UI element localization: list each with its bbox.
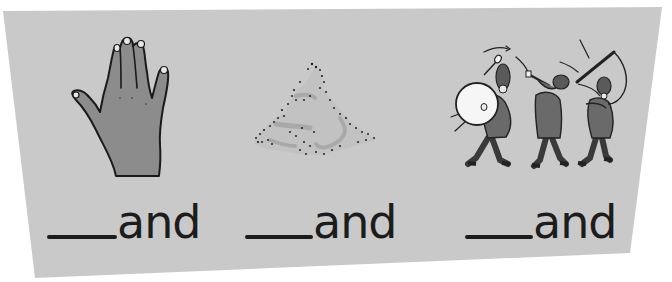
answer-blank-1[interactable] (47, 235, 117, 239)
worksheet-card-stage: and and and (0, 0, 672, 282)
answer-blank-3[interactable] (465, 235, 533, 239)
answer-blank-2[interactable] (245, 235, 313, 239)
word-ending-2: and (313, 199, 397, 245)
word-ending-3: and (533, 199, 617, 245)
word-ending-1: and (117, 199, 201, 245)
